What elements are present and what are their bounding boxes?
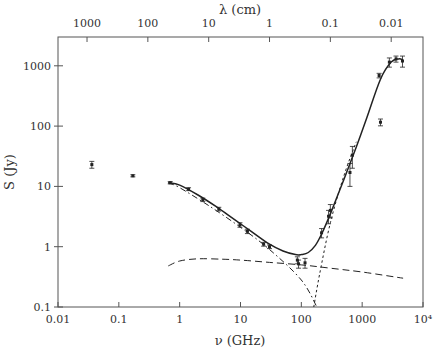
point-marker [217,208,220,211]
point-marker [238,223,241,226]
x-tick-label: 0.01 [46,313,71,326]
point-marker [187,188,190,191]
top-tick-label: 0.01 [379,17,404,30]
curve-free-free-component [168,259,403,278]
y-tick-label: 0.1 [34,301,52,314]
top-tick-label: 1 [266,17,273,30]
axis-ticks: 0.010.1110100100010⁴0.111010010001000100… [23,17,433,326]
point-marker [169,181,172,184]
y-tick-label: 1 [44,241,51,254]
data-point [400,56,405,67]
point-marker [329,209,332,212]
data-point [130,174,135,177]
x-tick-label: 10 [234,313,248,326]
point-marker [395,57,398,60]
data-point [350,146,355,168]
top-tick-label: 1000 [73,17,101,30]
top-axis-title: λ (cm) [219,2,261,17]
x-tick-label: 1 [176,313,183,326]
plot-border [58,37,423,307]
point-marker [246,230,249,233]
point-marker [348,171,351,174]
point-marker [401,60,404,63]
point-marker [90,163,93,166]
y-tick-label: 100 [30,120,51,133]
x-tick-label: 10⁴ [414,313,433,326]
point-marker [379,121,382,124]
y-tick-label: 1000 [23,60,51,73]
x-tick-label: 100 [291,313,312,326]
point-marker [320,231,323,234]
point-marker [131,174,134,177]
top-tick-label: 100 [137,17,158,30]
point-marker [327,215,330,218]
point-marker [351,154,354,157]
spectrum-chart: 0.010.1110100100010⁴0.111010010001000100… [0,0,436,358]
x-axis-title: ν (GHz) [215,333,266,348]
point-marker [268,245,271,248]
point-marker [388,61,391,64]
curve-synchrotron-component [168,183,317,307]
y-tick-label: 10 [37,180,51,193]
point-marker [378,74,381,77]
point-marker [297,262,300,265]
data-point [89,161,94,168]
plot-frame [58,37,423,307]
data-points [89,56,405,268]
x-tick-label: 1000 [348,313,376,326]
data-point [378,119,383,126]
point-marker [304,261,307,264]
y-axis-title: S (Jy) [2,154,17,190]
top-tick-label: 10 [202,17,216,30]
point-marker [262,243,265,246]
top-tick-label: 0.1 [322,17,340,30]
x-tick-label: 0.1 [110,313,128,326]
data-point [303,258,308,268]
point-marker [201,198,204,201]
model-curves [168,59,403,307]
curve-total-model [168,59,403,255]
